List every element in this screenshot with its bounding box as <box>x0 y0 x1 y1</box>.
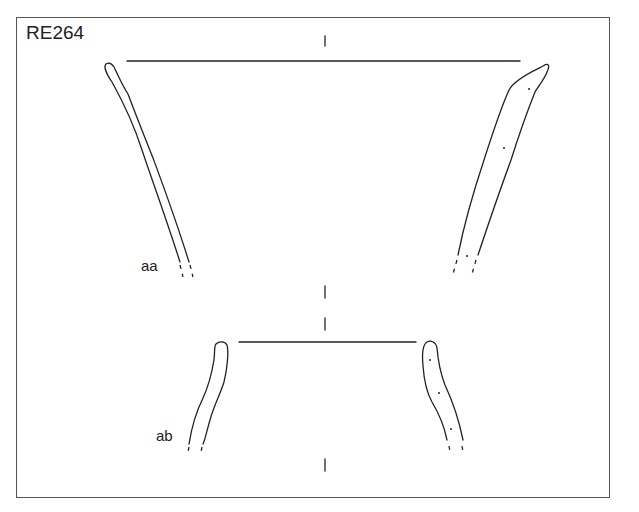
inclusion-dot <box>429 359 431 361</box>
sherd-ab-right-break <box>449 446 450 452</box>
sherd-ab-right-profile <box>422 341 463 440</box>
sherd-ab-left-break <box>201 447 202 452</box>
sherd-aa-right-profile <box>458 64 549 255</box>
pottery-drawing <box>0 0 639 512</box>
sherd-aa-right-break <box>472 260 476 274</box>
sherd-ab-left-profile <box>189 342 228 444</box>
inclusion-dot <box>528 88 530 90</box>
sherd-ab-right-break <box>462 446 463 452</box>
inclusion-dot <box>450 428 452 430</box>
inclusion-dot <box>466 255 468 257</box>
inclusion-dot <box>503 147 505 149</box>
inclusion-dot <box>438 392 440 394</box>
sherd-ab-left-break <box>188 447 189 452</box>
sherd-aa-right-break <box>453 260 457 274</box>
sherd-aa-left-break <box>190 265 193 277</box>
sherd-aa-left-break <box>180 265 183 277</box>
sherd-aa-left-profile <box>105 63 189 262</box>
